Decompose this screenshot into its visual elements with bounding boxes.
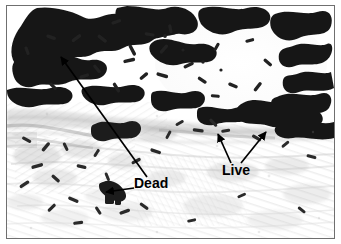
micrograph-image xyxy=(7,6,334,238)
micrograph-frame xyxy=(6,5,335,239)
micrograph-canvas xyxy=(7,6,334,238)
annotation-label-dead: Dead xyxy=(134,176,168,190)
annotation-label-live: Live xyxy=(222,163,250,177)
figure-micrograph-panel: Dead Live xyxy=(0,0,341,244)
